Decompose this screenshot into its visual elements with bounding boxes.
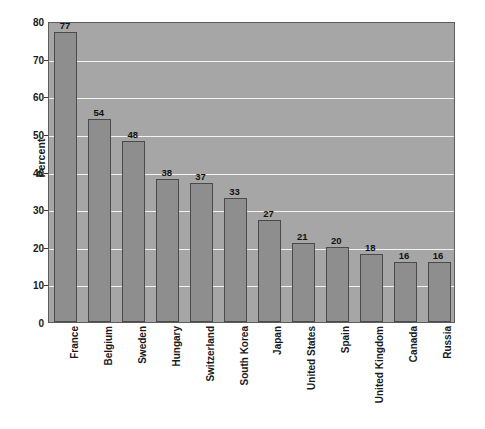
y-tick-label: 80 [4, 17, 44, 28]
bar[interactable] [190, 183, 213, 322]
y-tick-label: 30 [4, 205, 44, 216]
y-tick-label: 60 [4, 92, 44, 103]
x-tick-label: Sweden [137, 326, 148, 364]
x-tick-label: Switzerland [205, 326, 216, 382]
x-tick-label: Spain [340, 326, 351, 353]
y-tick-label: 20 [4, 242, 44, 253]
bar[interactable] [88, 119, 111, 322]
x-tick-label: United Kingdom [374, 326, 385, 403]
x-tick-label: France [69, 326, 80, 359]
x-tick-label: Japan [272, 326, 283, 355]
x-tick-label: Hungary [171, 326, 182, 367]
y-tick-label: 40 [4, 167, 44, 178]
x-tick-label: Belgium [103, 326, 114, 365]
y-axis-ticks: 01020304050607080 [0, 0, 44, 429]
bar[interactable] [156, 179, 179, 322]
bar[interactable] [394, 262, 417, 322]
bar[interactable] [428, 262, 451, 322]
y-tick-label: 10 [4, 280, 44, 291]
x-tick-label: Russia [442, 326, 453, 359]
bar[interactable] [292, 243, 315, 322]
bar[interactable] [54, 32, 77, 322]
bar[interactable] [326, 247, 349, 322]
bars-layer [49, 23, 454, 322]
bar-chart: Percent 01020304050607080 77544838373327… [0, 0, 485, 429]
x-tick-label: Canada [408, 326, 419, 362]
plot-area [48, 22, 455, 323]
x-tick-label: United States [306, 326, 317, 390]
y-tick-label: 0 [4, 318, 44, 329]
x-axis-labels: FranceBelgiumSwedenHungarySwitzerlandSou… [48, 326, 455, 426]
bar[interactable] [258, 220, 281, 322]
y-tick-label: 70 [4, 54, 44, 65]
bar[interactable] [224, 198, 247, 322]
x-tick-label: South Korea [239, 326, 250, 385]
bar[interactable] [360, 254, 383, 322]
y-tick-label: 50 [4, 129, 44, 140]
bar[interactable] [122, 141, 145, 322]
